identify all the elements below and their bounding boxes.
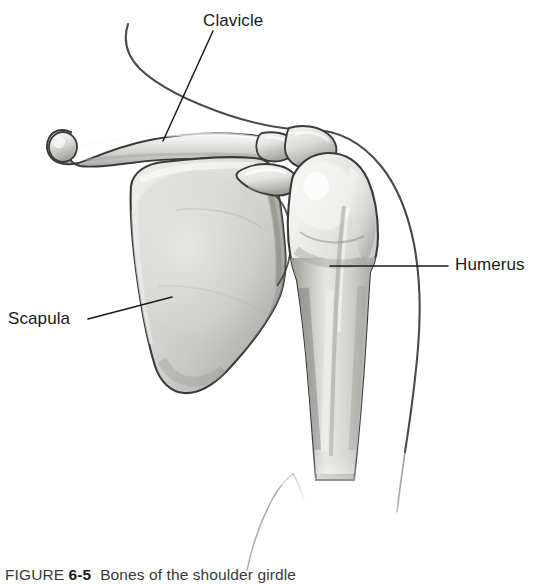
label-humerus: Humerus — [455, 255, 525, 275]
clavicle-sternal-end — [49, 132, 77, 162]
figure-container: Clavicle Humerus Scapula FIGURE 6-5 Bone… — [0, 0, 553, 584]
arm-contour-fade — [380, 440, 440, 540]
humerus-head-specular — [303, 172, 329, 200]
caption-text: Bones of the shoulder girdle — [100, 566, 296, 583]
label-clavicle: Clavicle — [203, 11, 263, 31]
caption-number: 6-5 — [69, 566, 92, 583]
humerus-shaft-fade — [282, 400, 386, 510]
label-scapula: Scapula — [8, 309, 70, 329]
clavicle-sternal-highlight — [53, 136, 65, 149]
figure-caption: FIGURE 6-5 Bones of the shoulder girdle — [5, 566, 296, 584]
shoulder-girdle-illustration — [0, 0, 553, 584]
caption-prefix: FIGURE — [5, 566, 64, 583]
